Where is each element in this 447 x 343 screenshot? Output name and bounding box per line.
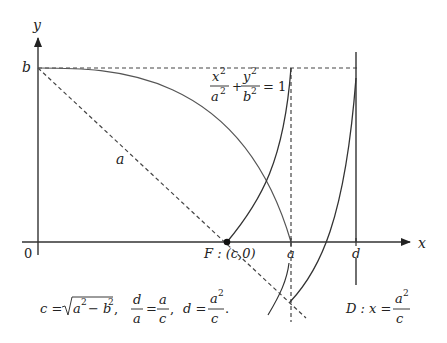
svg-text:2: 2: [220, 66, 226, 76]
svg-text:a: a: [211, 89, 219, 104]
svg-text:a: a: [210, 291, 218, 306]
directrix-curve: [290, 78, 356, 302]
svg-text:= 1: = 1: [263, 79, 286, 94]
svg-text:a: a: [133, 311, 141, 326]
svg-text:2: 2: [251, 86, 257, 96]
svg-text:a: a: [395, 291, 403, 306]
svg-text:c: c: [211, 311, 219, 326]
svg-text:2: 2: [81, 297, 87, 307]
b-label: b: [22, 59, 31, 75]
svg-text:2: 2: [108, 297, 114, 307]
svg-text:d: d: [133, 292, 141, 307]
svg-text:=: =: [146, 301, 157, 316]
hypotenuse-dashed-line: [38, 68, 306, 318]
x-axis-label: x: [418, 235, 426, 251]
svg-text:D : x =: D : x =: [345, 301, 391, 316]
svg-text:2: 2: [251, 66, 257, 76]
svg-text:d =: d =: [183, 301, 206, 316]
hypotenuse-label: a: [116, 151, 124, 167]
svg-text:y: y: [242, 69, 251, 84]
y-axis-label: y: [32, 17, 42, 33]
lower-curve-left: [268, 263, 289, 315]
d-label: d: [352, 246, 360, 261]
ellipse-equation: x 2 a 2 + y 2 b 2 = 1: [210, 66, 286, 104]
focus-curve: [227, 68, 291, 242]
svg-text:2: 2: [403, 288, 409, 298]
svg-text:+: +: [232, 80, 242, 94]
svg-text:c: c: [396, 311, 404, 326]
svg-text:c =: c =: [40, 301, 62, 316]
svg-text:x: x: [212, 69, 220, 84]
svg-text:,: ,: [114, 301, 118, 316]
svg-text:.: .: [225, 301, 229, 316]
a-label: a: [287, 246, 295, 261]
svg-text:2: 2: [220, 86, 226, 96]
focus-point: [224, 239, 231, 246]
svg-text:2: 2: [218, 288, 224, 298]
ellipse-focus-directrix-diagram: y x 0 b a F : (c,0) a d x 2 a 2 + y 2 b …: [0, 0, 447, 343]
svg-text:,: ,: [170, 301, 174, 316]
directrix-label: D : x = a 2 c: [345, 288, 410, 326]
focus-label: F : (c,0): [203, 246, 256, 261]
svg-text:a: a: [159, 292, 167, 307]
svg-text:a: a: [73, 301, 81, 316]
origin-label: 0: [24, 246, 32, 261]
relations-formula: c = a 2 − b 2 , d a = a c , d = a 2 c .: [40, 288, 229, 326]
svg-text:c: c: [159, 311, 167, 326]
